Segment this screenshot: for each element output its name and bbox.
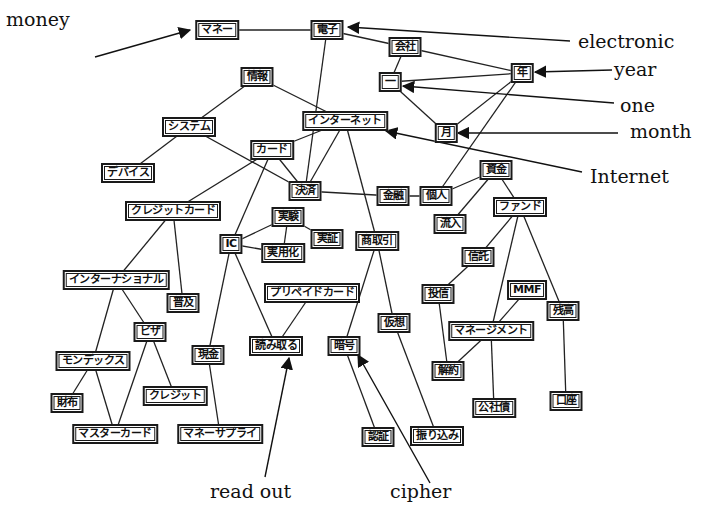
node-ichi: 一 [379, 72, 402, 92]
node-jikken: 実験 [272, 207, 305, 227]
node-shoutorihiki: 商取引 [355, 231, 399, 251]
node-saifu: 財布 [51, 393, 84, 413]
node-kessai: 決済 [289, 181, 322, 201]
edge-visa-mastercard [115, 332, 150, 434]
edge-shoutorihiki-kasou [377, 241, 394, 323]
node-visa: ビザ [134, 322, 167, 342]
arrow-electronic [348, 27, 570, 41]
annotation-internet_en: Internet [590, 165, 669, 187]
annotation-year: year [614, 58, 656, 80]
edge-toushin-kaiyaku [438, 294, 448, 371]
node-fukyu: 普及 [167, 293, 200, 313]
node-system: システム [162, 117, 216, 137]
node-mondex: モンデックス [56, 351, 131, 371]
node-kouza: 口座 [550, 391, 583, 411]
node-genkin: 現金 [192, 345, 225, 365]
node-creditcard: クレジットカード [125, 201, 221, 221]
edge-international-mondex [93, 280, 116, 361]
node-mastercard: マスターカード [72, 424, 158, 444]
node-kinyu: 金融 [377, 186, 410, 206]
node-denshi: 電子 [311, 20, 344, 40]
arrow-readout [265, 358, 289, 477]
node-money_jp: マネー [195, 20, 239, 40]
edge-creditcard-fukyu [173, 211, 183, 303]
annotation-money: money [6, 8, 70, 30]
edge-card-ic [231, 150, 272, 244]
node-mmf: MMF [507, 280, 547, 300]
node-angou: 暗号 [328, 336, 361, 356]
edge-zandaka-kouza [563, 311, 566, 401]
node-credit: クレジット [143, 386, 208, 406]
node-kaiyaku: 解約 [432, 361, 465, 381]
node-moneysupply: マネーサプライ [177, 424, 263, 444]
arrow-money [95, 30, 190, 57]
node-toushin: 投信 [422, 284, 455, 304]
annotation-electronic: electronic [578, 30, 674, 52]
edge-management-koushasai [491, 331, 494, 408]
node-internet: インターネット [302, 111, 388, 131]
arrow-cipher [358, 355, 430, 483]
node-international: インターナショナル [63, 270, 170, 290]
node-jisshou: 実証 [311, 229, 344, 249]
node-prepaid: プリペイドカード [264, 283, 360, 303]
edge-fund-management [491, 207, 520, 331]
arrow-one [403, 86, 614, 103]
node-zandaka: 残高 [547, 301, 580, 321]
node-fund: ファンド [493, 197, 547, 217]
annotation-month: month [630, 120, 692, 142]
concept-graph: マネー電子会社一年月情報インターネットシステムカードデバイス決済金融個人資金ファ… [0, 0, 713, 518]
node-card: カード [250, 140, 294, 160]
node-management: マネージメント [448, 321, 534, 341]
node-ninshou: 認証 [362, 427, 395, 447]
node-tsuki: 月 [435, 123, 458, 143]
node-shintaku: 信託 [462, 247, 495, 267]
node-koushasai: 公社債 [472, 398, 516, 418]
arrow-year [535, 70, 612, 72]
node-kaisha: 会社 [389, 37, 422, 57]
node-nen: 年 [511, 63, 534, 83]
node-ryunyu: 流入 [434, 214, 467, 234]
annotation-readout: read out [210, 480, 291, 502]
node-kojin: 個人 [420, 186, 453, 206]
edge-genkin-moneysupply [208, 355, 220, 434]
edge-nen-ichi [390, 73, 522, 82]
edge-ic-genkin [208, 244, 231, 355]
annotation-cipher: cipher [390, 480, 451, 502]
node-shikin: 資金 [480, 160, 513, 180]
node-jouhou: 情報 [241, 67, 274, 87]
edge-kaisha-nen [405, 47, 522, 73]
node-jitsuyouka: 実用化 [261, 243, 305, 263]
annotation-one: one [620, 94, 655, 116]
node-furikomi: 振り込み [410, 426, 464, 446]
edge-internet-shoutorihiki [345, 121, 377, 241]
node-yomitoru: 読み取る [249, 336, 303, 356]
node-ic: IC [219, 234, 242, 254]
node-kasou: 仮想 [378, 313, 411, 333]
node-device: デバイス [101, 163, 155, 183]
